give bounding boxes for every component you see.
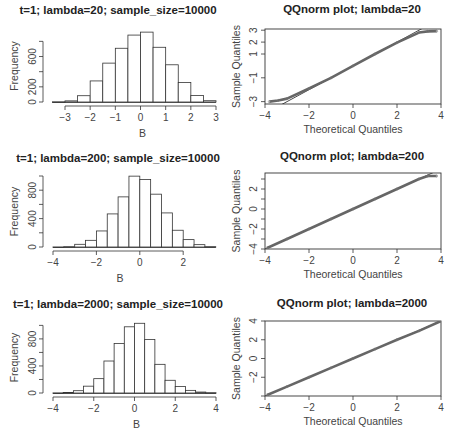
- y-tick-label: −2: [248, 371, 259, 383]
- y-tick-label: 4: [248, 318, 259, 324]
- x-tick-label: −4: [259, 255, 271, 266]
- chart-title: t=1; lambda=20; sample_size=10000: [19, 4, 216, 16]
- histogram-bar: [115, 48, 128, 102]
- y-tick-label: 2: [248, 337, 259, 343]
- y-tick-label: 200: [27, 78, 38, 95]
- x-tick-label: 4: [438, 110, 444, 121]
- histogram-bar: [141, 32, 154, 102]
- x-tick-label: −4: [259, 402, 271, 413]
- y-tick-label: 600: [27, 48, 38, 65]
- x-tick-label: 2: [394, 402, 400, 413]
- x-tick-label: −4: [47, 257, 59, 268]
- x-axis-label: B: [139, 127, 146, 139]
- chart-title: QQnorm plot; lambda=200: [280, 150, 424, 162]
- histogram-bar: [129, 176, 140, 247]
- y-axis-label: Sample Quantiles: [230, 317, 242, 400]
- x-tick-label: −3: [59, 112, 71, 123]
- x-tick-label: 0: [350, 255, 356, 266]
- y-tick-label: −4: [248, 243, 259, 255]
- histogram-bar: [203, 101, 216, 102]
- x-tick-label: 0: [137, 257, 143, 268]
- y-tick-label: 400: [27, 210, 38, 227]
- y-tick-label: 800: [27, 181, 38, 198]
- y-axis-label: Sample Quantiles: [230, 25, 242, 108]
- histogram-bar: [178, 83, 191, 102]
- x-tick-label: 0: [350, 110, 356, 121]
- histogram-bar: [103, 63, 116, 102]
- histogram-bar: [73, 391, 83, 393]
- histogram-bar: [165, 380, 175, 393]
- x-tick-label: 2: [188, 112, 194, 123]
- x-tick-label: 2: [394, 255, 400, 266]
- chart-title: t=1; lambda=2000; sample_size=10000: [13, 298, 223, 310]
- histogram-bar: [75, 244, 86, 247]
- y-tick-label: 800: [27, 330, 38, 347]
- histogram-bar: [124, 327, 134, 393]
- x-tick-label: 4: [438, 402, 444, 413]
- x-tick-label: 2: [394, 110, 400, 121]
- y-tick-label: 0: [27, 99, 38, 105]
- x-tick-label: 0: [350, 402, 356, 413]
- histogram-bar: [194, 245, 205, 247]
- histogram-bar: [135, 323, 145, 393]
- x-tick-label: 2: [180, 257, 186, 268]
- histogram-bar: [155, 364, 165, 393]
- histogram-bar: [90, 81, 103, 102]
- y-tick-label: −1: [248, 72, 259, 84]
- histogram-bar: [96, 231, 107, 247]
- x-tick-label: 1: [163, 112, 169, 123]
- histogram-bar: [118, 197, 129, 247]
- histogram-bar: [104, 361, 114, 393]
- x-tick-label: 0: [138, 112, 144, 123]
- histogram-bar: [175, 387, 185, 393]
- chart-title: QQnorm plot; lambda=20: [283, 3, 421, 15]
- x-tick-label: −2: [88, 403, 100, 414]
- histogram-bar: [128, 35, 141, 102]
- y-tick-label: 0: [27, 244, 38, 250]
- histogram-bar: [183, 240, 194, 247]
- histogram-bar: [151, 194, 162, 247]
- x-tick-label: −4: [259, 110, 271, 121]
- histogram-bar: [86, 240, 97, 247]
- x-axis-label: Theoretical Quantiles: [303, 268, 402, 280]
- x-axis-label: B: [117, 272, 124, 284]
- y-axis-label: Frequency: [8, 332, 20, 382]
- x-tick-label: 4: [438, 255, 444, 266]
- x-tick-label: 0: [132, 403, 138, 414]
- y-tick-label: 2: [248, 39, 259, 45]
- histogram-bar: [65, 101, 78, 102]
- y-tick-label: −3: [248, 95, 259, 107]
- histogram-bar: [140, 179, 151, 247]
- chart-panel-5: t=1; lambda=2000; sample_size=10000−4−20…: [8, 298, 223, 430]
- chart-title: t=1; lambda=200; sample_size=10000: [16, 152, 220, 164]
- histogram-bar: [172, 230, 183, 247]
- y-tick-label: 1: [248, 51, 259, 57]
- y-tick-label: 400: [27, 357, 38, 374]
- x-tick-label: −2: [91, 257, 103, 268]
- histogram-bar: [153, 47, 166, 102]
- x-tick-label: −2: [303, 255, 315, 266]
- histogram-bar: [191, 95, 204, 102]
- y-tick-label: 0: [248, 355, 259, 361]
- x-tick-label: 2: [172, 403, 178, 414]
- y-tick-label: 2: [248, 186, 259, 192]
- y-axis-label: Frequency: [8, 40, 20, 90]
- histogram-bar: [114, 343, 124, 393]
- chart-panel-6: QQnorm plot; lambda=2000−4−2024Theoretic…: [230, 297, 444, 427]
- x-axis-label: Theoretical Quantiles: [303, 123, 402, 135]
- histogram-bar: [185, 390, 195, 393]
- y-tick-label: 0: [27, 390, 38, 396]
- histogram-bar: [78, 96, 91, 102]
- y-tick-label: −2: [248, 223, 259, 235]
- histogram-bar: [162, 213, 173, 247]
- x-tick-label: −2: [84, 112, 96, 123]
- histogram-bar: [145, 340, 155, 393]
- histogram-bar: [166, 65, 179, 102]
- x-tick-label: −1: [110, 112, 122, 123]
- y-axis-label: Frequency: [8, 186, 20, 236]
- chart-panel-3: t=1; lambda=200; sample_size=10000−4−202…: [8, 152, 220, 284]
- x-tick-label: −2: [303, 110, 315, 121]
- y-tick-label: 3: [248, 27, 259, 33]
- x-tick-label: 4: [213, 403, 219, 414]
- chart-panel-4: QQnorm plot; lambda=200−4−2024Theoretica…: [230, 150, 444, 280]
